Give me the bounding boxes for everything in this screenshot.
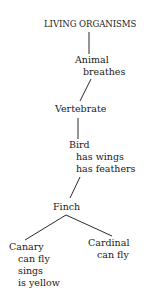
node-bird-property: has feathers	[76, 163, 135, 175]
node-root-label: LIVING ORGANISMS	[44, 18, 136, 30]
edge-bird-finch	[70, 177, 80, 198]
node-bird-label: Bird	[69, 139, 90, 151]
edge-animal-vertebrate	[80, 79, 91, 101]
edge-finch-cardinal	[66, 215, 112, 236]
node-canary-label: Canary	[9, 241, 44, 253]
node-finch-label: Finch	[53, 201, 80, 213]
node-canary-property: is yellow	[18, 277, 60, 289]
edge-finch-canary	[25, 215, 66, 240]
node-vertebrate-label: Vertebrate	[55, 103, 106, 115]
node-animal-label: Animal	[75, 54, 109, 66]
node-canary-property: can fly	[18, 253, 50, 265]
node-canary-property: sings	[18, 265, 43, 277]
node-bird-property: has wings	[76, 151, 124, 163]
node-cardinal-property: can fly	[97, 249, 129, 261]
node-cardinal-label: Cardinal	[88, 237, 129, 249]
node-animal-property: breathes	[83, 66, 125, 78]
